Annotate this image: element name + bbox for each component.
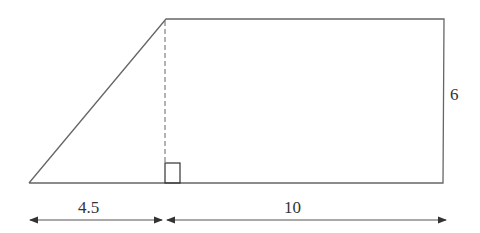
trapezoid-outline bbox=[29, 19, 444, 183]
trapezoid-diagram: 4.5 10 6 bbox=[0, 0, 480, 233]
label-left-base: 4.5 bbox=[78, 198, 99, 217]
right-angle-marker bbox=[165, 163, 180, 183]
label-height: 6 bbox=[450, 85, 459, 104]
label-right-base: 10 bbox=[284, 198, 301, 217]
